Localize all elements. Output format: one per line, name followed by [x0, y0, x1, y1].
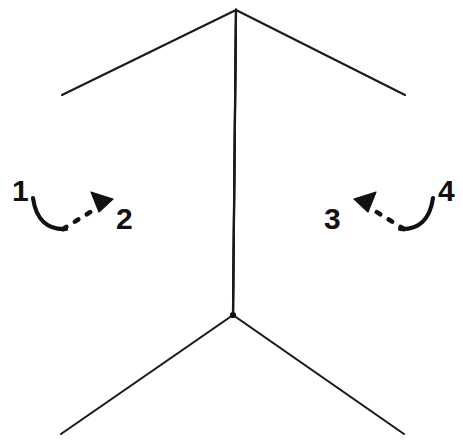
callout-1-group: 1	[12, 174, 66, 229]
callout-4-group: 4	[400, 174, 455, 229]
left-panel-face	[61, 10, 236, 434]
figure-canvas: Folded planar surface with numbered side…	[0, 0, 463, 444]
callout-1-arc-leader	[33, 198, 66, 229]
callout-1-label: 1	[12, 174, 29, 207]
callout-2-label: 2	[116, 202, 133, 235]
crease-bottom-vertex-dot	[230, 312, 236, 318]
callout-4-label: 4	[438, 174, 455, 207]
callout-4-arc-leader	[400, 198, 433, 229]
callout-3-label: 3	[324, 202, 341, 235]
dihedral-surface-diagram: Folded planar surface with numbered side…	[0, 0, 463, 444]
right-panel-face	[233, 10, 405, 434]
